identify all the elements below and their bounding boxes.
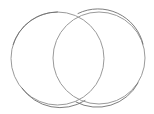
venn-diagram-svg: [0, 0, 154, 114]
venn-diagram-canvas: [0, 0, 154, 114]
